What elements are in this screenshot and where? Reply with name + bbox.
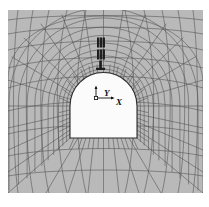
tunnel-mesh-figure: Y X bbox=[8, 10, 203, 193]
mesh-diagram bbox=[8, 10, 203, 193]
axis-label-y: Y bbox=[104, 89, 110, 98]
axis-label-x: X bbox=[116, 98, 122, 107]
axis-origin-marker bbox=[94, 96, 97, 99]
tunnel-opening bbox=[70, 73, 137, 138]
figure-root: Y X bbox=[0, 0, 209, 207]
